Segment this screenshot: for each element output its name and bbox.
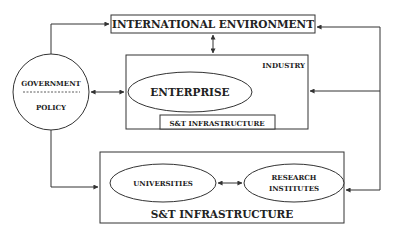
arrow-government-to-international — [51, 24, 109, 54]
government-label: GOVERNMENT — [21, 79, 81, 88]
st-infrastructure-box: UNIVERSITIES RESEARCH INSTITUTES S&T INF… — [100, 152, 344, 223]
industry-box: INDUSTRY ENTERPRISE S&T INFRASTRUCTURE — [126, 55, 308, 129]
international-environment-label: INTERNATIONAL ENVIRONMENT — [112, 18, 314, 30]
international-environment-box: INTERNATIONAL ENVIRONMENT — [111, 15, 315, 33]
government-policy-circle: GOVERNMENT POLICY — [13, 54, 89, 130]
st-infrastructure-label: S&T INFRASTRUCTURE — [151, 208, 294, 220]
arrow-government-to-st — [51, 130, 98, 187]
policy-label: POLICY — [36, 103, 67, 112]
inner-st-infrastructure-label: S&T INFRASTRUCTURE — [169, 119, 264, 128]
institutes-label: INSTITUTES — [269, 184, 319, 193]
research-label: RESEARCH — [272, 173, 317, 182]
enterprise-label: ENTERPRISE — [150, 86, 229, 98]
diagram-canvas: INTERNATIONAL ENVIRONMENT GOVERNMENT POL… — [0, 0, 393, 237]
universities-label: UNIVERSITIES — [133, 179, 193, 188]
research-institutes-ellipse — [244, 164, 344, 202]
industry-label: INDUSTRY — [262, 61, 306, 70]
